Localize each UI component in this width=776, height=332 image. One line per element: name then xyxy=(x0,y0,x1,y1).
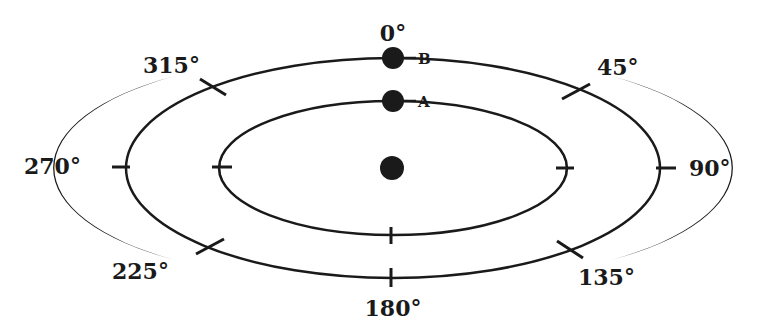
angle-label-225: 225° xyxy=(112,258,169,284)
tick-315-outer xyxy=(200,79,226,95)
point-b-label: B xyxy=(418,50,431,68)
point-a-marker xyxy=(382,90,404,112)
point-a-label: A xyxy=(417,93,430,111)
orbit-diagram: B A 0° 45° 90° 135° 180° 225° 270° 315° xyxy=(0,0,776,332)
angle-label-45: 45° xyxy=(597,54,639,80)
angle-label-270: 270° xyxy=(24,153,81,179)
angle-label-135: 135° xyxy=(578,264,635,290)
angle-label-90: 90° xyxy=(689,155,731,181)
tick-135-outer xyxy=(557,241,583,258)
angle-label-315: 315° xyxy=(143,52,200,78)
central-body-dot xyxy=(380,156,404,180)
angle-label-180: 180° xyxy=(365,295,422,321)
point-b-marker xyxy=(382,47,404,69)
angle-label-0: 0° xyxy=(380,20,406,46)
